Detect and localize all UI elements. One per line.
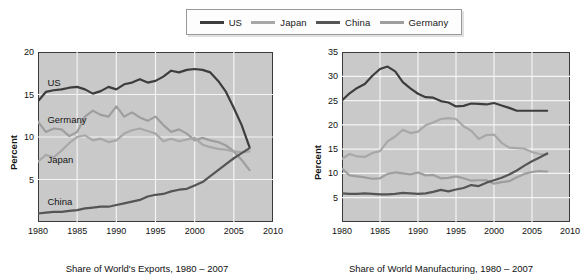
y-tick-exports-0: 5: [29, 175, 34, 185]
series-line-us: [342, 67, 547, 111]
legend-swatch-us: [200, 21, 224, 24]
x-tick-exports-0: 1980: [28, 226, 48, 236]
legend-swatch-germany: [380, 21, 404, 24]
x-tick-manufacturing-3: 1995: [446, 226, 466, 236]
series-annotation-germany: Germany: [47, 114, 86, 125]
x-tick-exports-5: 2005: [224, 226, 244, 236]
legend-item-germany: Germany: [380, 17, 449, 28]
chart-legend: US Japan China Germany: [186, 9, 462, 35]
y-tick-manufacturing-2: 15: [328, 144, 338, 154]
chart-panel-exports: Percent 51015201980198519901995200020052…: [0, 40, 294, 280]
x-tick-manufacturing-4: 2000: [484, 226, 504, 236]
legend-label-germany: Germany: [409, 17, 449, 28]
legend-label-china: China: [345, 17, 370, 28]
y-tick-exports-3: 20: [24, 47, 34, 57]
legend-item-us: US: [200, 17, 242, 28]
y-axis-label-exports: Percent: [8, 135, 19, 170]
x-tick-exports-1: 1985: [67, 226, 87, 236]
x-tick-exports-4: 2000: [185, 226, 205, 236]
y-tick-manufacturing-3: 20: [328, 120, 338, 130]
x-tick-manufacturing-5: 2005: [522, 226, 542, 236]
legend-swatch-china: [316, 21, 340, 24]
series-line-japan: [342, 118, 547, 159]
legend-swatch-japan: [251, 21, 275, 24]
y-tick-exports-1: 10: [24, 132, 34, 142]
legend-item-japan: Japan: [251, 17, 306, 28]
y-tick-manufacturing-5: 30: [328, 71, 338, 81]
series-annotation-us: US: [47, 77, 60, 88]
y-tick-manufacturing-0: 5: [333, 193, 338, 203]
x-tick-manufacturing-2: 1990: [408, 226, 428, 236]
plot-area-exports: 51015201980198519901995200020052010USGer…: [38, 52, 273, 222]
legend-label-us: US: [229, 17, 242, 28]
x-tick-manufacturing-6: 2010: [560, 226, 580, 236]
legend-label-japan: Japan: [280, 17, 306, 28]
y-tick-manufacturing-4: 25: [328, 96, 338, 106]
legend-item-china: China: [316, 17, 370, 28]
x-tick-manufacturing-1: 1985: [370, 226, 390, 236]
series-annotation-japan: Japan: [47, 154, 73, 165]
x-tick-manufacturing-0: 1980: [332, 226, 352, 236]
chart-svg-exports: [38, 52, 273, 222]
y-tick-manufacturing-1: 10: [328, 168, 338, 178]
chart-panel-manufacturing: Percent 51015202530351980198519901995200…: [294, 40, 588, 280]
y-axis-label-manufacturing: Percent: [312, 145, 323, 180]
plot-area-manufacturing: 5101520253035198019851990199520002005201…: [342, 52, 570, 222]
x-tick-exports-6: 2010: [263, 226, 283, 236]
chart-caption-manufacturing: Share of World Manufacturing, 1980 – 200…: [294, 263, 588, 274]
y-tick-exports-2: 15: [24, 90, 34, 100]
x-tick-exports-2: 1990: [106, 226, 126, 236]
chart-caption-exports: Share of World's Exports, 1980 – 2007: [0, 263, 294, 274]
y-tick-manufacturing-6: 35: [328, 47, 338, 57]
x-tick-exports-3: 1995: [145, 226, 165, 236]
series-annotation-china: China: [47, 196, 72, 207]
chart-svg-manufacturing: [342, 52, 570, 222]
